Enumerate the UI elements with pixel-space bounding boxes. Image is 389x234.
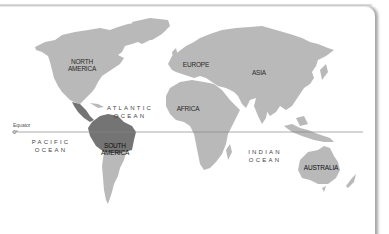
ocean-line: PACIFIC: [26, 138, 76, 146]
ocean-line: ATLANTIC: [100, 104, 160, 112]
label-line: ASIA: [244, 69, 274, 76]
south-america-south-shape: [102, 152, 126, 204]
ocean-line: OCEAN: [240, 156, 290, 164]
central-america-shape: [72, 102, 94, 122]
ocean-line: INDIAN: [240, 148, 290, 156]
label-line: AMERICA: [62, 65, 102, 72]
equator-label: Equator: [13, 122, 31, 128]
label-line: EUROPE: [176, 61, 216, 68]
label-europe: EUROPE: [176, 61, 216, 68]
world-map: [0, 0, 389, 234]
label-asia: ASIA: [244, 69, 274, 76]
label-atlantic-ocean: ATLANTIC OCEAN: [100, 104, 160, 120]
equator-degree: 0°: [13, 129, 18, 135]
label-line: SOUTH: [95, 142, 135, 149]
label-line: AUSTRALIA: [296, 164, 346, 171]
ocean-line: OCEAN: [100, 112, 160, 120]
label-south-america: SOUTH AMERICA: [95, 142, 135, 156]
label-line: AMERICA: [95, 149, 135, 156]
label-line: NORTH: [62, 58, 102, 65]
label-indian-ocean: INDIAN OCEAN: [240, 148, 290, 164]
label-north-america: NORTH AMERICA: [62, 58, 102, 72]
label-pacific-ocean: PACIFIC OCEAN: [26, 138, 76, 154]
label-africa: AFRICA: [168, 105, 208, 112]
indonesia-shape: [284, 124, 334, 142]
ocean-line: OCEAN: [26, 146, 76, 154]
label-australia: AUSTRALIA: [296, 164, 346, 171]
label-line: AFRICA: [168, 105, 208, 112]
